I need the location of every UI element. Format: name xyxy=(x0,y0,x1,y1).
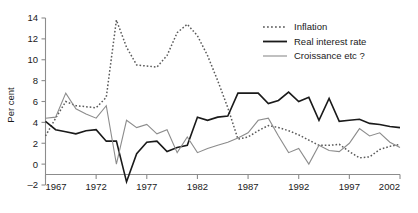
x-tick-label: 1987 xyxy=(238,181,259,192)
series-line-real-interest-rate xyxy=(46,92,401,182)
y-tick-label: 8 xyxy=(33,75,38,86)
x-axis-ticks xyxy=(46,175,401,180)
chart-legend: InflationReal interest rateCroissance et… xyxy=(263,21,366,61)
y-tick-label: 10 xyxy=(27,54,38,65)
x-tick-label: 1972 xyxy=(86,181,107,192)
y-tick-label: 4 xyxy=(33,117,38,128)
x-tick-label: 1977 xyxy=(136,181,157,192)
y-axis-ticks xyxy=(42,18,46,185)
x-axis-tick-labels: 19671972197719821987199219972002 xyxy=(46,181,401,192)
series-line-croissance-etc xyxy=(46,93,401,164)
y-tick-label: –2 xyxy=(27,179,38,190)
x-tick-label: 2002 xyxy=(379,181,400,192)
x-tick-label: 1982 xyxy=(187,181,208,192)
legend-label-3: Croissance etc ? xyxy=(294,50,365,61)
y-tick-label: 6 xyxy=(33,96,38,107)
line-chart: –202468101214 19671972197719821987199219… xyxy=(0,0,418,213)
y-tick-label: 0 xyxy=(33,159,38,170)
y-tick-label: 14 xyxy=(27,12,38,23)
y-tick-label: 12 xyxy=(27,33,38,44)
y-axis-title: Per cent xyxy=(5,87,16,123)
y-axis-tick-labels: –202468101214 xyxy=(27,12,38,190)
x-tick-label: 1967 xyxy=(46,181,67,192)
legend-label-2: Real interest rate xyxy=(294,36,366,47)
y-tick-label: 2 xyxy=(33,138,38,149)
legend-label-1: Inflation xyxy=(294,21,327,32)
x-tick-label: 1992 xyxy=(288,181,309,192)
x-tick-label: 1997 xyxy=(339,181,360,192)
chart-figure: –202468101214 19671972197719821987199219… xyxy=(0,0,418,213)
